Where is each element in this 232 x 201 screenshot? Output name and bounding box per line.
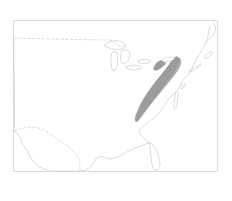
lake-huron-outline	[121, 50, 131, 65]
map-canvas	[0, 0, 232, 201]
lake-michigan-outline	[111, 51, 118, 71]
west-and-gulf-coastline	[14, 38, 80, 171]
distribution-range-map	[0, 0, 232, 201]
lake-ontario-outline	[139, 60, 151, 64]
chesapeake-bay-outline	[174, 92, 179, 110]
atlantic-coastline	[139, 26, 210, 131]
us-mexico-border-line	[15, 127, 80, 171]
cape-cod-outline	[205, 52, 213, 59]
florida-peninsula-outline	[139, 131, 160, 170]
lake-superior-outline	[105, 41, 127, 50]
gulf-coast-east	[80, 143, 150, 171]
us-canada-border-line	[14, 38, 110, 40]
delaware-bay-outline	[182, 84, 186, 90]
lake-erie-outline	[126, 65, 142, 70]
us-canada-border-east-segment	[110, 40, 125, 46]
